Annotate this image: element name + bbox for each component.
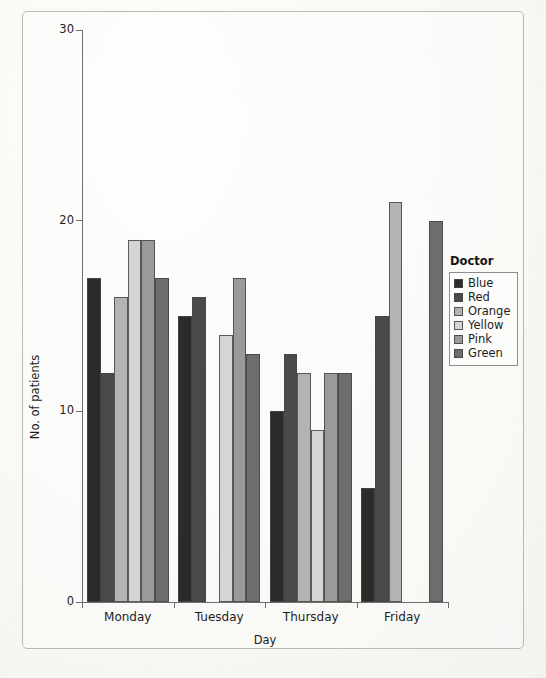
x-tick-label: Thursday xyxy=(261,611,361,624)
legend-entry: Pink xyxy=(454,333,511,347)
bar xyxy=(114,297,128,602)
bar xyxy=(178,316,192,602)
legend-label: Green xyxy=(468,348,503,360)
bar xyxy=(141,240,155,602)
legend-swatch-icon xyxy=(454,335,463,344)
legend-swatch-icon xyxy=(454,307,463,316)
legend-swatch-icon xyxy=(454,293,463,302)
y-tick-label: 20 xyxy=(34,215,74,227)
bar xyxy=(429,221,443,602)
legend-label: Red xyxy=(468,292,490,304)
bar xyxy=(375,316,389,602)
bar xyxy=(297,373,311,602)
x-tick-mark xyxy=(357,602,358,608)
bar xyxy=(246,354,260,602)
bar xyxy=(324,373,338,602)
bar xyxy=(87,278,101,602)
bar xyxy=(338,373,352,602)
legend-label: Pink xyxy=(468,334,492,346)
x-tick-label: Tuesday xyxy=(169,611,269,624)
legend-box: BlueRedOrangeYellowPinkGreen xyxy=(449,272,518,366)
bar xyxy=(155,278,169,602)
legend-entry: Red xyxy=(454,291,511,305)
x-tick-mark xyxy=(174,602,175,608)
x-tick-mark xyxy=(448,602,449,608)
legend-title: Doctor xyxy=(450,256,518,268)
y-tick-label: 30 xyxy=(34,24,74,36)
y-tick-mark xyxy=(76,220,83,221)
legend-entry: Orange xyxy=(454,305,511,319)
y-axis-title: No. of patients xyxy=(28,327,42,467)
bar xyxy=(192,297,206,602)
y-axis-line xyxy=(82,30,83,603)
bar xyxy=(270,411,284,602)
legend: Doctor BlueRedOrangeYellowPinkGreen xyxy=(449,256,518,366)
legend-swatch-icon xyxy=(454,321,463,330)
legend-label: Yellow xyxy=(468,320,503,332)
legend-swatch-icon xyxy=(454,279,463,288)
bar xyxy=(284,354,298,602)
bar xyxy=(233,278,247,602)
x-tick-label: Monday xyxy=(78,611,178,624)
legend-entry: Blue xyxy=(454,277,511,291)
legend-entry: Yellow xyxy=(454,319,511,333)
y-tick-mark xyxy=(76,30,83,31)
scanned-page: No. of patients Day 0102030MondayTuesday… xyxy=(0,0,546,678)
bar xyxy=(128,240,142,602)
bar xyxy=(361,488,375,602)
x-tick-mark xyxy=(265,602,266,608)
x-axis-title: Day xyxy=(82,633,448,647)
bar xyxy=(311,430,325,602)
legend-swatch-icon xyxy=(454,349,463,358)
bar xyxy=(101,373,115,602)
y-tick-mark xyxy=(76,411,83,412)
bar xyxy=(389,202,403,602)
y-tick-label: 10 xyxy=(34,405,74,417)
y-tick-label: 0 xyxy=(34,596,74,608)
legend-label: Orange xyxy=(468,306,511,318)
legend-entry: Green xyxy=(454,347,511,361)
x-tick-mark xyxy=(82,602,83,608)
legend-label: Blue xyxy=(468,278,493,290)
x-tick-label: Friday xyxy=(352,611,452,624)
bar xyxy=(219,335,233,602)
